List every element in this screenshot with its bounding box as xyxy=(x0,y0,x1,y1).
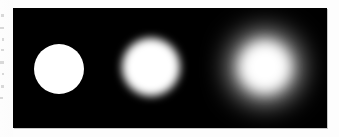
figure-root xyxy=(0,0,339,137)
scan-speck xyxy=(0,27,4,29)
disc-sharp xyxy=(34,44,84,94)
disc-heavy-core xyxy=(241,43,289,91)
scan-artifact-gutter xyxy=(0,0,13,137)
scan-speck xyxy=(1,85,4,88)
scan-speck xyxy=(0,97,3,99)
blur-progression-panel xyxy=(13,8,327,128)
disc-medium xyxy=(122,38,180,96)
scan-speck xyxy=(2,73,4,75)
scan-speck xyxy=(2,38,4,41)
scan-speck xyxy=(1,49,4,51)
scan-speck xyxy=(1,14,4,17)
scan-speck xyxy=(0,61,4,64)
